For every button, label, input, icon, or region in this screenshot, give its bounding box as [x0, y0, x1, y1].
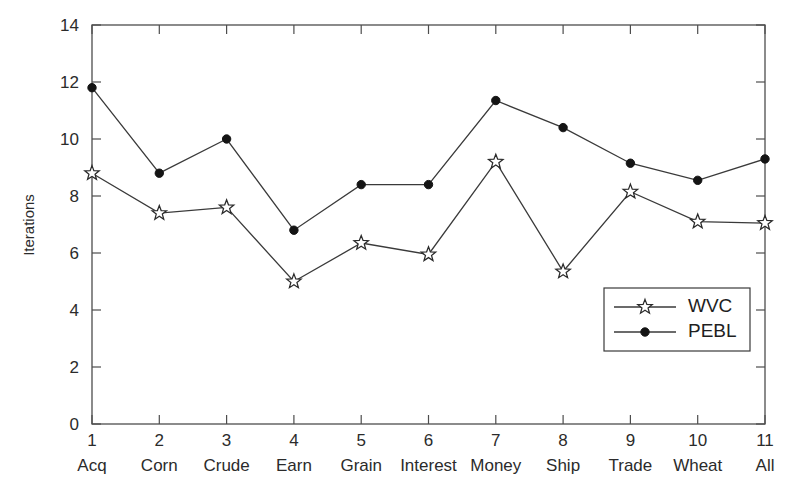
x-tick-label: 11	[756, 431, 774, 450]
data-point-marker	[219, 200, 233, 214]
line-chart: 02468101214 1Acq2Corn3Crude4Earn5Grain6I…	[0, 0, 808, 483]
x-tick-label: 1	[87, 431, 96, 450]
series-pebl	[88, 84, 769, 235]
x-category-label: Trade	[609, 456, 653, 475]
x-category-label: Acq	[77, 456, 106, 475]
y-tick-label: 12	[60, 73, 79, 92]
x-category-label: Wheat	[673, 456, 722, 475]
data-point-marker	[290, 226, 298, 234]
x-category-label: Earn	[276, 456, 312, 475]
data-point-marker	[492, 96, 500, 104]
plot-border	[92, 25, 765, 424]
chart-legend: WVCPEBL	[604, 288, 750, 351]
y-axis-title: Iterations	[20, 194, 37, 256]
x-axis: 1Acq2Corn3Crude4Earn5Grain6Interest7Mone…	[77, 25, 774, 475]
x-category-label: Grain	[340, 456, 382, 475]
data-point-marker	[626, 159, 634, 167]
x-category-label: Corn	[141, 456, 178, 475]
legend-label: PEBL	[688, 320, 737, 341]
data-point-marker	[222, 135, 230, 143]
plot-frame	[92, 25, 765, 424]
y-tick-label: 10	[60, 130, 79, 149]
y-tick-label: 6	[70, 244, 79, 263]
x-tick-label: 8	[558, 431, 567, 450]
data-point-marker	[559, 123, 567, 131]
data-point-marker	[357, 180, 365, 188]
x-tick-label: 7	[491, 431, 500, 450]
series-line-pebl	[92, 88, 765, 231]
series-wvc	[85, 154, 772, 287]
x-category-label: Interest	[400, 456, 457, 475]
x-tick-label: 5	[356, 431, 365, 450]
y-tick-label: 14	[60, 16, 79, 35]
legend-marker-circle-icon	[641, 328, 649, 336]
data-point-marker	[489, 154, 503, 168]
data-series-group	[85, 84, 772, 288]
data-point-marker	[354, 235, 368, 249]
y-axis: 02468101214	[60, 16, 765, 434]
data-point-marker	[761, 155, 769, 163]
data-point-marker	[88, 84, 96, 92]
series-line-wvc	[92, 162, 765, 282]
data-point-marker	[690, 214, 704, 228]
x-tick-label: 3	[222, 431, 231, 450]
data-point-marker	[623, 184, 637, 198]
x-category-label: Money	[470, 456, 522, 475]
data-point-marker	[152, 206, 166, 220]
y-tick-label: 0	[70, 415, 79, 434]
data-point-marker	[421, 247, 435, 261]
data-point-marker	[155, 169, 163, 177]
x-tick-label: 4	[289, 431, 298, 450]
data-point-marker	[424, 180, 432, 188]
x-category-label: All	[756, 456, 775, 475]
data-point-marker	[694, 176, 702, 184]
y-tick-label: 2	[70, 358, 79, 377]
y-tick-label: 8	[70, 187, 79, 206]
x-tick-label: 10	[688, 431, 707, 450]
x-tick-label: 2	[155, 431, 164, 450]
y-tick-label: 4	[70, 301, 79, 320]
chart-figure: 02468101214 1Acq2Corn3Crude4Earn5Grain6I…	[0, 0, 808, 483]
x-tick-label: 9	[626, 431, 635, 450]
x-tick-label: 6	[424, 431, 433, 450]
x-category-label: Ship	[546, 456, 580, 475]
legend-label: WVC	[688, 295, 732, 316]
x-category-label: Crude	[203, 456, 249, 475]
